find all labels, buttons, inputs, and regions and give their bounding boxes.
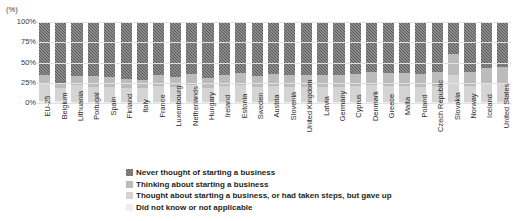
x-axis-label: Lithuania — [77, 91, 84, 121]
bar-segment — [88, 76, 99, 87]
y-axis-unit-label: (%) — [6, 5, 18, 14]
y-axis-tick-0: 0% — [2, 99, 36, 107]
x-label-slot: United States — [495, 106, 511, 162]
x-label-slot: Czech Republic — [429, 106, 445, 162]
x-axis-label: France — [159, 94, 166, 117]
bar-segment — [497, 22, 508, 67]
x-axis-label: Sweden — [257, 93, 264, 120]
x-label-slot: Lithuania — [69, 106, 85, 162]
x-label-slot: Portugal — [85, 106, 101, 162]
bar-segment — [448, 22, 459, 54]
bar-segment — [448, 54, 459, 74]
bar-segment — [350, 22, 361, 74]
bar-segment — [383, 22, 394, 73]
x-axis-label: Finland — [126, 94, 133, 118]
bar-segment — [252, 76, 263, 87]
x-axis-label: Denmark — [372, 91, 379, 121]
x-axis-label: Portugal — [93, 92, 100, 120]
gridline-75 — [36, 42, 511, 43]
bar-segment — [415, 22, 426, 74]
x-label-slot: Slovakia — [445, 106, 461, 162]
x-axis-label: Belgium — [61, 93, 68, 120]
bar-segment — [219, 75, 230, 86]
x-label-slot: Greece — [380, 106, 396, 162]
x-axis-label: Netherlands — [192, 86, 199, 126]
bar-segment — [366, 22, 377, 72]
x-label-slot: EU-25 — [36, 106, 52, 162]
x-label-slot: Iceland — [478, 106, 494, 162]
x-label-slot: Luxembourg — [167, 106, 183, 162]
bar-segment — [497, 67, 508, 83]
x-label-slot: France — [151, 106, 167, 162]
x-label-slot: Germany — [331, 106, 347, 162]
x-axis-label: Greece — [388, 94, 395, 118]
bar-segment — [333, 22, 344, 75]
bar-segment — [219, 22, 230, 75]
bar-segment — [415, 74, 426, 87]
bar-segment — [235, 22, 246, 73]
bar-segment — [481, 68, 492, 83]
bar-segment — [333, 75, 344, 87]
y-axis-tick-50: 50% — [2, 59, 36, 67]
x-label-slot: Malta — [396, 106, 412, 162]
legend-item-gaveup[interactable]: Thought about starting a business, or ha… — [126, 190, 506, 202]
legend-swatch-icon — [126, 169, 133, 176]
x-axis-label: Latvia — [323, 96, 330, 116]
x-label-slot: Belgium — [52, 106, 68, 162]
x-label-slot: Finland — [118, 106, 134, 162]
bar-segment — [268, 74, 279, 86]
bar-segment — [284, 22, 295, 75]
x-axis-label: United Kingdom — [306, 80, 313, 133]
bar-segment — [350, 74, 361, 86]
legend-item-thinking[interactable]: Thinking about starting a business — [126, 179, 506, 191]
bar-segment — [399, 22, 410, 73]
bar-segment — [268, 22, 279, 74]
x-axis-label: Iceland — [486, 94, 493, 118]
bar-segment — [71, 22, 82, 76]
stacked-bar-chart: (%) 0%25%50%75%100% EU-25BelgiumLithuani… — [0, 0, 513, 221]
legend-swatch-icon — [126, 181, 133, 188]
legend-label: Never thought of starting a business — [136, 168, 275, 177]
x-axis-label: Luxembourg — [175, 85, 182, 126]
x-label-slot: Hungary — [200, 106, 216, 162]
bar-segment — [153, 22, 164, 75]
x-label-slot: Cyprus — [347, 106, 363, 162]
bar-segment — [55, 22, 66, 83]
legend-label: Thought about starting a business, or ha… — [136, 191, 392, 200]
x-label-slot: Sweden — [249, 106, 265, 162]
legend-label: Did not know or not applicable — [136, 203, 252, 212]
x-label-slot: Netherlands — [183, 106, 199, 162]
x-axis-tick-labels: EU-25BelgiumLithuaniaPortugalSpainFinlan… — [36, 106, 511, 162]
gridline-100 — [36, 22, 511, 23]
bar-segment — [88, 22, 99, 76]
x-axis-label: Estonia — [241, 94, 248, 119]
x-label-slot: Denmark — [364, 106, 380, 162]
x-label-slot: Spain — [102, 106, 118, 162]
x-label-slot: United Kingdom — [298, 106, 314, 162]
y-axis-tick-25: 25% — [2, 79, 36, 87]
bar-segment — [432, 22, 443, 72]
bar-segment — [170, 22, 181, 77]
bar-segment — [186, 22, 197, 74]
x-axis-label: Cyprus — [355, 94, 362, 117]
x-axis-label: Czech Republic — [437, 80, 444, 132]
legend-item-never[interactable]: Never thought of starting a business — [126, 167, 506, 179]
x-label-slot: Slovenia — [282, 106, 298, 162]
bar-segment — [464, 22, 475, 72]
x-label-slot: Austria — [265, 106, 281, 162]
bar-segment — [137, 22, 148, 80]
x-axis-label: United States — [503, 84, 510, 128]
bar-segment — [317, 75, 328, 87]
x-axis-label: Austria — [273, 94, 280, 117]
x-label-slot: Norway — [462, 106, 478, 162]
x-label-slot: Estonia — [233, 106, 249, 162]
bar-segment — [399, 73, 410, 86]
legend-label: Thinking about starting a business — [136, 180, 268, 189]
bar-segment — [104, 22, 115, 77]
chart-legend: Never thought of starting a businessThin… — [126, 167, 506, 213]
x-axis-label: Poland — [421, 94, 428, 117]
x-axis-label: EU-25 — [44, 96, 51, 117]
legend-item-na[interactable]: Did not know or not applicable — [126, 202, 506, 214]
x-axis-label: Ireland — [224, 95, 231, 118]
y-axis-tick-labels: 0%25%50%75%100% — [0, 22, 36, 106]
